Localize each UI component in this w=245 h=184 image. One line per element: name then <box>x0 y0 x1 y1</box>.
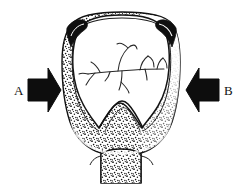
specimen-body <box>62 12 180 183</box>
stem-left-notch <box>90 156 101 165</box>
stem-right-notch <box>141 156 153 165</box>
label-b: B <box>224 83 233 98</box>
label-a: A <box>14 83 24 98</box>
arrow-a[interactable] <box>28 68 61 112</box>
arrow-a-shape[interactable] <box>28 68 61 112</box>
arrow-b-shape[interactable] <box>186 68 219 112</box>
anatomical-figure: A B <box>0 0 245 184</box>
figure-root: A B <box>0 0 245 184</box>
arrow-b[interactable] <box>186 68 219 112</box>
